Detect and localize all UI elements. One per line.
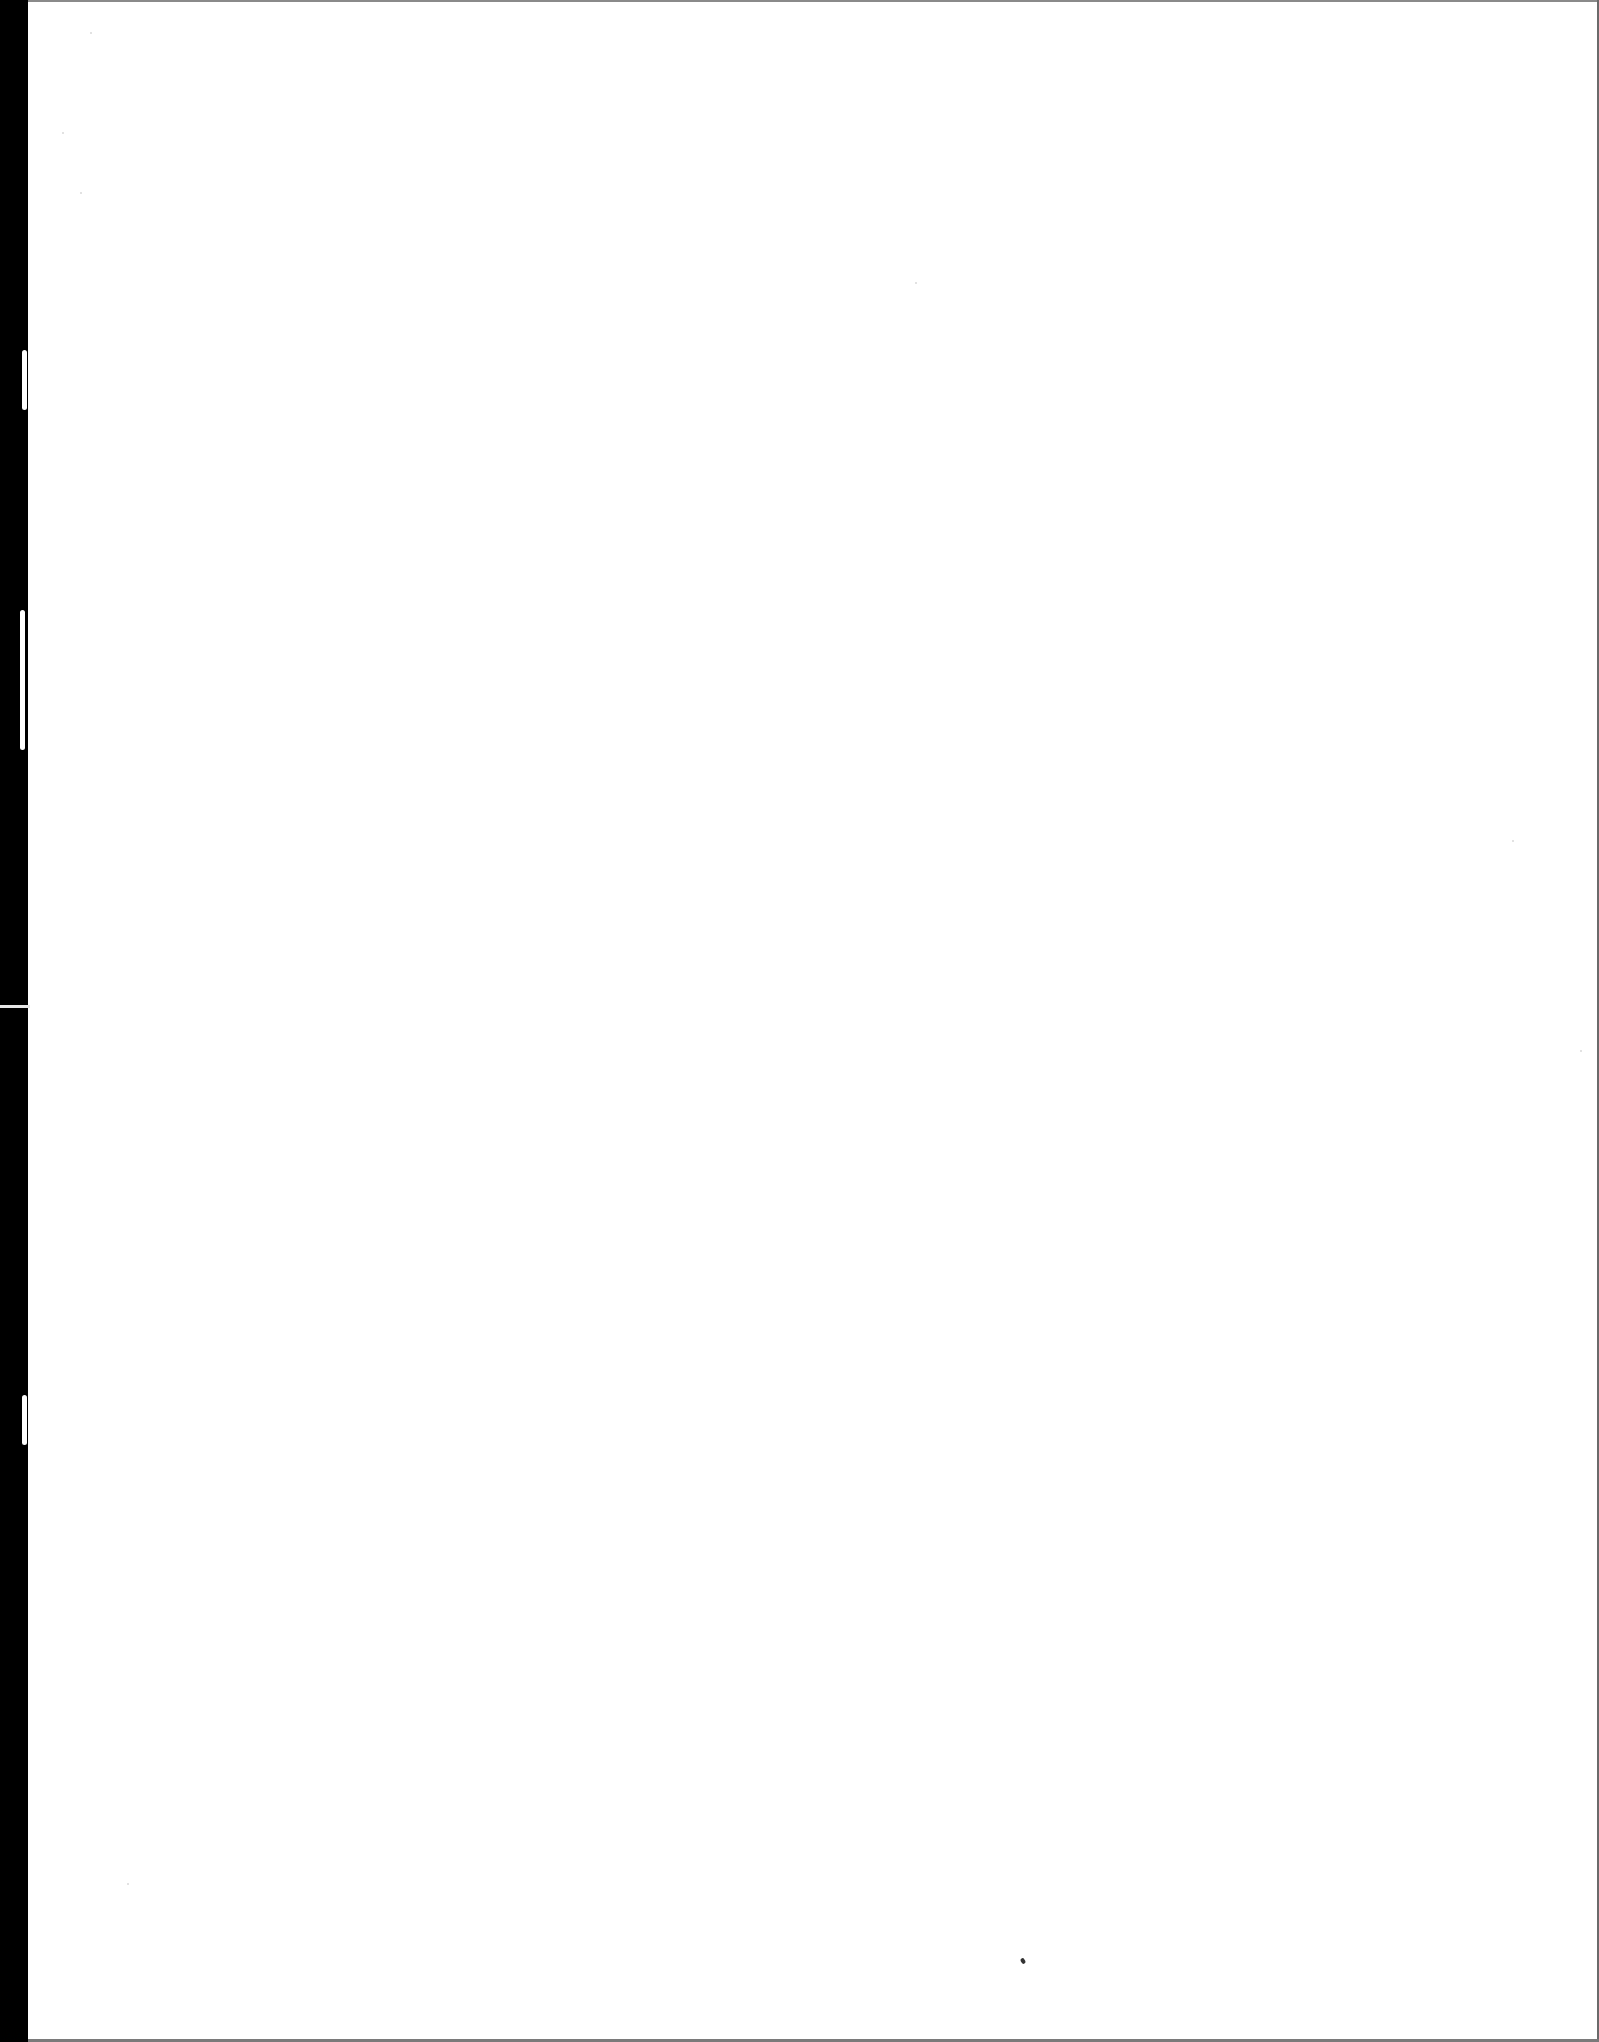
scan-dust [1512, 840, 1514, 842]
page-content-area [60, 40, 1559, 2002]
scan-dust [80, 192, 82, 194]
page-border-top [28, 0, 1599, 2]
edge-notch [0, 1005, 30, 1008]
scan-dust [90, 32, 92, 34]
scan-dust [127, 1883, 129, 1885]
scan-dust [1580, 1050, 1582, 1052]
scan-binding-edge [0, 0, 28, 2042]
edge-tear [20, 610, 25, 750]
scan-dust [62, 132, 64, 134]
edge-tear [22, 350, 27, 410]
scan-dust [915, 282, 917, 284]
edge-tear [22, 1395, 27, 1445]
scanned-page [0, 0, 1599, 2042]
